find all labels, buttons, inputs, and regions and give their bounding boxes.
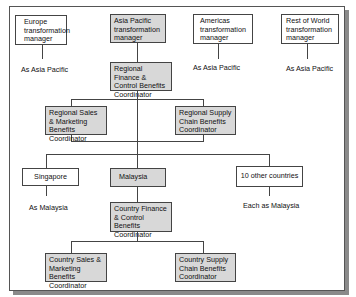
regional-sales-box: Regional Sales & Marketing Benefits Coor… <box>45 106 107 135</box>
rest-of-world-connector <box>307 44 308 59</box>
regional-bottom-bar <box>71 141 204 142</box>
europe-connector <box>42 45 43 59</box>
singapore-label: Singapore <box>34 173 67 182</box>
country-left-drop <box>71 241 72 253</box>
regional-supply-label: Regional Supply Chain Benefits Coordinat… <box>179 108 231 134</box>
singapore-note: As Malaysia <box>29 203 68 212</box>
europe-manager-label: Europe transformation manager <box>24 17 70 43</box>
country-finance-box: Country Finance & Control Benefits Coord… <box>110 202 172 232</box>
countries-bar <box>46 154 270 155</box>
europe-note: As Asia Pacific <box>21 65 68 74</box>
country-supply-box: Country Supply Chain Benefits Coordinato… <box>175 253 236 282</box>
country-sales-box: Country Sales & Marketing Benefits Coord… <box>45 253 107 282</box>
regional-left-drop <box>71 99 72 106</box>
americas-connector <box>218 44 219 59</box>
americas-note: As Asia Pacific <box>193 63 240 72</box>
other-countries-label: 10 other countries <box>241 172 299 181</box>
country-trunk <box>137 232 138 241</box>
regional-supply-box: Regional Supply Chain Benefits Coordinat… <box>175 106 236 135</box>
americas-manager-box: Americas transformation manager <box>193 14 253 44</box>
malaysia-box: Malaysia <box>110 168 166 187</box>
other-countries-note: Each as Malaysia <box>243 201 299 210</box>
country-bar <box>71 241 204 242</box>
other-countries-box: 10 other countries <box>236 166 303 187</box>
singapore-box: Singapore <box>22 168 79 186</box>
regional-finance-box: Regional Finance & Control Benefits Coor… <box>110 62 172 91</box>
malaysia-label: Malaysia <box>119 173 147 182</box>
diagram-frame <box>9 6 345 291</box>
regional-trunk <box>137 91 138 168</box>
malaysia-connector <box>137 187 138 202</box>
regional-right-rise <box>203 134 204 141</box>
singapore-connector <box>46 186 47 196</box>
rest-of-world-manager-label: Rest of World transformation manager <box>286 16 332 42</box>
asia-pacific-manager-label: Asia Pacific transformation manager <box>114 16 160 42</box>
asia-pacific-connector <box>137 43 138 62</box>
regional-right-drop <box>203 99 204 106</box>
americas-manager-label: Americas transformation manager <box>200 16 246 42</box>
other-countries-drop <box>269 154 270 166</box>
europe-manager-box: Europe transformation manager <box>15 15 67 45</box>
singapore-drop <box>46 154 47 168</box>
other-countries-connector <box>269 187 270 196</box>
asia-pacific-manager-box: Asia Pacific transformation manager <box>110 14 166 43</box>
rest-of-world-manager-box: Rest of World transformation manager <box>281 14 339 44</box>
rest-of-world-note: As Asia Pacific <box>286 64 333 73</box>
country-right-drop <box>203 241 204 253</box>
country-supply-label: Country Supply Chain Benefits Coordinato… <box>179 255 228 281</box>
regional-top-bar <box>71 99 204 100</box>
